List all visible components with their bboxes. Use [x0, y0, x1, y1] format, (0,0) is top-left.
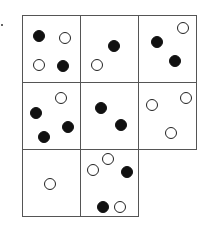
white-circle-icon: [59, 32, 71, 44]
grid-cell-r0-c0: [22, 15, 81, 83]
grid-cell-r2-c1: [80, 149, 139, 217]
black-circle-icon: [30, 107, 42, 119]
white-circle-icon: [165, 127, 177, 139]
black-circle-icon: [62, 121, 74, 133]
grid-cell-r2-c0: [22, 149, 81, 217]
white-circle-icon: [55, 92, 67, 104]
white-circle-icon: [44, 178, 56, 190]
black-circle-icon: [108, 40, 120, 52]
grid-cell-r1-c2: [138, 82, 197, 150]
white-circle-icon: [180, 92, 192, 104]
black-circle-icon: [121, 166, 133, 178]
white-circle-icon: [91, 59, 103, 71]
grid-cell-r0-c1: [80, 15, 139, 83]
black-circle-icon: [38, 131, 50, 143]
black-circle-icon: [169, 55, 181, 67]
white-circle-icon: [33, 59, 45, 71]
grid-cell-r1-c0: [22, 82, 81, 150]
white-circle-icon: [87, 164, 99, 176]
black-circle-icon: [57, 60, 69, 72]
grid-cell-r0-c2: [138, 15, 197, 83]
black-circle-icon: [97, 201, 109, 213]
white-circle-icon: [177, 22, 189, 34]
white-circle-icon: [114, 201, 126, 213]
white-circle-icon: [102, 153, 114, 165]
white-circle-icon: [146, 99, 158, 111]
black-circle-icon: [95, 102, 107, 114]
black-circle-icon: [115, 119, 127, 131]
black-circle-icon: [151, 36, 163, 48]
grid-cell-r1-c1: [80, 82, 139, 150]
question-marker-dot: [1, 24, 3, 26]
black-circle-icon: [33, 30, 45, 42]
